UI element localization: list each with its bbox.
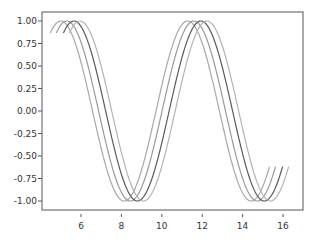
y-tick-label: 0.25 — [17, 84, 37, 94]
x-tick-label: 10 — [156, 221, 168, 231]
y-tick-label: -0.25 — [14, 129, 37, 139]
y-tick-label: -0.75 — [14, 174, 37, 184]
line-chart: 1.000.750.500.250.00-0.25-0.50-0.75-1.00… — [0, 0, 319, 240]
x-tick-label: 12 — [196, 221, 207, 231]
y-tick-label: 0.50 — [17, 61, 37, 71]
x-axis: 6810121416 — [78, 214, 289, 231]
x-tick-label: 14 — [237, 221, 249, 231]
y-axis: 1.000.750.500.250.00-0.25-0.50-0.75-1.00 — [14, 16, 42, 206]
y-tick-label: 0.00 — [17, 106, 37, 116]
y-tick-label: 0.75 — [17, 39, 37, 49]
x-tick-label: 8 — [119, 221, 125, 231]
y-tick-label: -1.00 — [14, 196, 38, 206]
x-tick-label: 16 — [277, 221, 289, 231]
y-tick-label: -0.50 — [14, 151, 38, 161]
y-tick-label: 1.00 — [17, 16, 37, 26]
x-tick-label: 6 — [78, 221, 84, 231]
